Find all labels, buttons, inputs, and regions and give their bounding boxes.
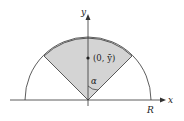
radius-label: R [146, 105, 154, 115]
alpha-label: α [91, 76, 97, 86]
centroid-point [86, 56, 89, 59]
y-axis-label: y [80, 7, 87, 17]
centroid-label: (0, ȳ) [93, 53, 115, 63]
sector-centroid-diagram: y x (0, ȳ) α R [0, 0, 184, 121]
x-axis-label: x [168, 95, 173, 105]
x-axis-arrow-icon [160, 98, 166, 103]
y-axis-arrow-icon [86, 14, 91, 20]
